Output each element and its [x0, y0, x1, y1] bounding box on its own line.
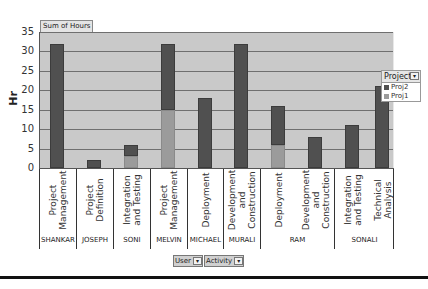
legend-label: Proj1 [391, 92, 409, 101]
gridline [39, 149, 393, 150]
activity-filter-label: Activity [206, 257, 232, 265]
dropdown-arrow-icon[interactable]: ▾ [410, 72, 419, 80]
legend-item-proj2: Proj2 [382, 83, 420, 92]
y-tick-label: 10 [6, 124, 34, 134]
bar-segment-proj1[interactable] [124, 156, 138, 168]
category-label: Development and Construction [223, 169, 260, 231]
legend: Project ▾ Proj2 Proj1 [381, 70, 421, 102]
gridline [39, 129, 393, 130]
user-label: MURALI [223, 231, 260, 249]
y-tick-label: 20 [6, 85, 34, 95]
bar-segment-proj1[interactable] [161, 110, 175, 168]
gridline [39, 90, 393, 91]
y-tick-label: 15 [6, 105, 34, 115]
sum-of-hours-field-button[interactable]: Sum of Hours [40, 20, 93, 32]
category-label: Integration and Testing [334, 169, 371, 231]
gridline [39, 32, 393, 33]
dropdown-arrow-icon[interactable]: ▾ [193, 257, 202, 265]
y-tick-label: 5 [6, 144, 34, 154]
bar-segment-proj2[interactable] [87, 160, 101, 168]
field-filter-bar: User ▾ Activity ▾ [173, 255, 244, 267]
category-label: Integration and Testing [113, 169, 150, 231]
category-label: Deployment [187, 169, 223, 231]
category-label: Deployment [260, 169, 297, 231]
user-label: MELVIN [150, 231, 187, 249]
bar-segment-proj2[interactable] [308, 137, 322, 168]
user-label: JOSEPH [76, 231, 113, 249]
bar-segment-proj2[interactable] [234, 44, 248, 168]
user-label: SHANKAR [39, 231, 76, 249]
legend-title: Project [384, 72, 411, 81]
y-axis-line [39, 32, 40, 169]
dropdown-arrow-icon[interactable]: ▾ [234, 257, 243, 265]
category-label: Project Management [150, 169, 187, 231]
y-tick-label: 35 [6, 27, 34, 37]
plot-area: Project ▾ Proj2 Proj1 [39, 32, 394, 168]
bar-segment-proj1[interactable] [271, 145, 285, 168]
bar-segment-proj2[interactable] [161, 44, 175, 110]
gridline [39, 71, 393, 72]
legend-label: Proj2 [391, 83, 409, 92]
bar-segment-proj2[interactable] [50, 44, 64, 168]
project-filter-button[interactable]: Project ▾ [382, 71, 420, 83]
bar-segment-proj2[interactable] [345, 125, 359, 168]
y-tick-label: 0 [6, 163, 34, 173]
category-label: Technical Analysis [371, 169, 394, 231]
legend-swatch-icon [384, 85, 389, 90]
y-tick-label: 30 [6, 46, 34, 56]
divider [0, 276, 428, 279]
bar-segment-proj2[interactable] [271, 106, 285, 145]
bar-segment-proj2[interactable] [198, 98, 212, 168]
legend-item-proj1: Proj1 [382, 92, 420, 101]
user-label: SONI [113, 231, 150, 249]
category-label: Project Management [39, 169, 76, 231]
y-tick-label: 25 [6, 66, 34, 76]
category-label: Project Definition [76, 169, 113, 231]
bar-segment-proj2[interactable] [124, 145, 138, 157]
user-filter-button[interactable]: User ▾ [173, 255, 203, 267]
user-filter-label: User [175, 257, 191, 265]
activity-filter-button[interactable]: Activity ▾ [204, 255, 244, 267]
category-label: Development and Construction [297, 169, 334, 231]
gridline [39, 51, 393, 52]
gridline [39, 110, 393, 111]
user-label: MICHAEL [187, 231, 223, 249]
user-label: RAM [260, 231, 334, 249]
legend-swatch-icon [384, 94, 389, 99]
user-label: SONALI [334, 231, 394, 249]
